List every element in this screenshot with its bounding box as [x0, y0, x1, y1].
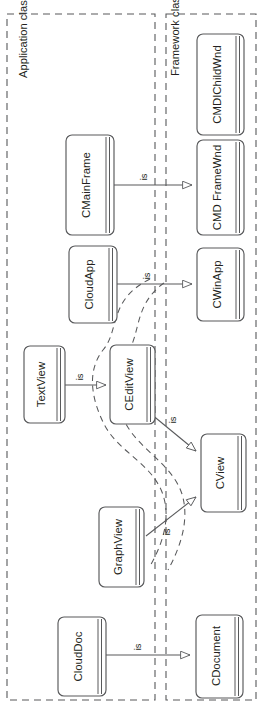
class-name-label: CloudDoc [72, 631, 84, 681]
class-name-label: TextView [35, 361, 47, 407]
class-name-label: GraphView [112, 518, 124, 575]
class-box-cdocument[interactable]: CDocument [196, 615, 243, 698]
class-box-cmdiframewnd[interactable]: CMD FrameWnd [197, 140, 244, 235]
relation-label-is-5: is [162, 528, 172, 535]
class-box-cmainframe[interactable]: CMainFrame [66, 135, 114, 235]
class-diagram-svg: Application classes Framework classes is… [0, 0, 262, 713]
class-box-clouddoc[interactable]: CloudDoc [58, 617, 106, 696]
relation-label-is-3: is [75, 373, 85, 380]
class-box-cmdichildwnd[interactable]: CMDIChildWnd [197, 34, 244, 135]
relation-label-is-4: is [168, 416, 178, 423]
class-box-cview[interactable]: CView [201, 434, 246, 512]
region-framework-label: Framework classes [169, 0, 181, 76]
class-box-ceditview[interactable]: CEditView [110, 345, 155, 424]
diagram-canvas: Application classes Framework classes is… [0, 0, 262, 713]
class-name-label: CloudApp [83, 259, 95, 309]
class-name-label: CDocument [210, 625, 222, 686]
class-name-label: CWinApp [211, 260, 223, 308]
class-box-textview[interactable]: TextView [24, 346, 65, 423]
class-box-cloudapp[interactable]: CloudApp [69, 246, 117, 323]
class-name-label: CView [214, 456, 226, 489]
region-application-label: Application classes [17, 0, 29, 78]
class-box-graphview[interactable]: GraphView [99, 507, 144, 587]
class-box-cwinapp[interactable]: CWinApp [197, 248, 244, 321]
class-name-label: CMainFrame [80, 152, 92, 218]
class-name-label: CMDIChildWnd [211, 45, 223, 123]
class-name-label: CMD FrameWnd [211, 145, 223, 230]
relation-label-is-6: is [133, 643, 143, 650]
relation-label-is-1: is [139, 173, 149, 180]
relation-label-is-2: is [142, 272, 152, 279]
class-name-label: CEditView [123, 358, 135, 411]
